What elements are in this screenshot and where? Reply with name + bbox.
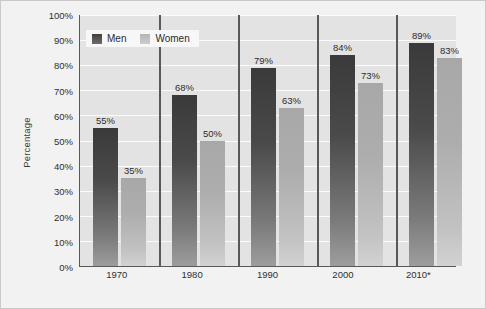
bar-value-label: 35% bbox=[124, 165, 143, 176]
legend-item-men[interactable]: Men bbox=[92, 33, 126, 44]
bar-group: 79%63% bbox=[238, 15, 317, 266]
bar-value-label: 79% bbox=[254, 55, 273, 66]
x-axis-tick-label: 1990 bbox=[230, 269, 305, 280]
bar-women-1990[interactable]: 63% bbox=[279, 108, 304, 266]
x-axis-tick-label: 2000 bbox=[305, 269, 380, 280]
x-axis-tick-label: 1970 bbox=[79, 269, 154, 280]
legend-item-women[interactable]: Women bbox=[140, 33, 189, 44]
bar-group: 68%50% bbox=[159, 15, 238, 266]
plot-area: 55%35%68%50%79%63%84%73%89%83% bbox=[79, 15, 456, 267]
bar-group: 89%83% bbox=[396, 15, 475, 266]
legend-swatch-men bbox=[92, 34, 102, 44]
y-axis-tick-label: 70% bbox=[54, 85, 73, 96]
x-axis-tick-labels: 19701980199020002010* bbox=[79, 269, 456, 280]
y-axis-tick-label: 30% bbox=[54, 186, 73, 197]
y-axis-tick-label: 100% bbox=[49, 10, 73, 21]
y-axis-tick-label: 50% bbox=[54, 136, 73, 147]
bar-value-label: 63% bbox=[282, 95, 301, 106]
bar-group: 55%35% bbox=[80, 15, 159, 266]
x-axis-tick-label: 1980 bbox=[154, 269, 229, 280]
bar-value-label: 50% bbox=[203, 128, 222, 139]
y-axis-tick-label: 20% bbox=[54, 211, 73, 222]
y-axis-tick-labels: 0%10%20%30%40%50%60%70%80%90%100% bbox=[37, 15, 77, 267]
y-axis-tick-label: 60% bbox=[54, 110, 73, 121]
bar-men-1990[interactable]: 79% bbox=[251, 68, 276, 266]
bar-value-label: 73% bbox=[361, 70, 380, 81]
x-axis-tick-label: 2010* bbox=[381, 269, 456, 280]
bar-value-label: 83% bbox=[440, 45, 459, 56]
bar-value-label: 55% bbox=[96, 115, 115, 126]
y-axis-tick-label: 10% bbox=[54, 236, 73, 247]
y-axis-tick-label: 80% bbox=[54, 60, 73, 71]
bar-men-2000[interactable]: 84% bbox=[330, 55, 355, 266]
bar-value-label: 68% bbox=[175, 82, 194, 93]
y-axis-tick-label: 40% bbox=[54, 161, 73, 172]
bar-men-1980[interactable]: 68% bbox=[172, 95, 197, 266]
bar-women-2000[interactable]: 73% bbox=[358, 83, 383, 266]
bar-value-label: 84% bbox=[333, 42, 352, 53]
legend-label: Women bbox=[155, 33, 189, 44]
bar-group: 84%73% bbox=[317, 15, 396, 266]
bar-women-1980[interactable]: 50% bbox=[200, 141, 225, 267]
y-axis-title-text: Percentage bbox=[21, 117, 32, 168]
bar-value-label: 89% bbox=[412, 30, 431, 41]
bar-women-2010[interactable]: 83% bbox=[437, 58, 462, 266]
y-axis-tick-label: 90% bbox=[54, 35, 73, 46]
bar-men-2010[interactable]: 89% bbox=[409, 43, 434, 266]
legend-label: Men bbox=[107, 33, 126, 44]
y-axis-tick-label: 0% bbox=[59, 262, 73, 273]
bar-men-1970[interactable]: 55% bbox=[93, 128, 118, 266]
bar-groups: 55%35%68%50%79%63%84%73%89%83% bbox=[80, 15, 456, 266]
chart-figure: Percentage 0%10%20%30%40%50%60%70%80%90%… bbox=[0, 0, 486, 309]
bar-women-1970[interactable]: 35% bbox=[121, 178, 146, 266]
y-axis-title: Percentage bbox=[15, 1, 37, 283]
chart-legend: MenWomen bbox=[86, 30, 199, 47]
legend-swatch-women bbox=[140, 34, 150, 44]
